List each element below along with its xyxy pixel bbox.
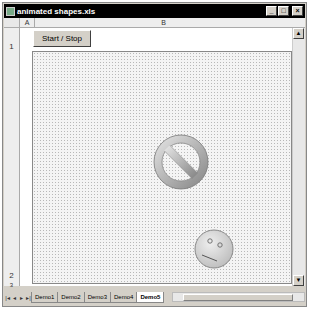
tab-demo1[interactable]: Demo1 (31, 292, 58, 303)
minimize-button[interactable]: _ (266, 6, 277, 16)
column-header-a[interactable]: A (20, 18, 35, 27)
scroll-down-button[interactable]: ▼ (293, 275, 304, 286)
select-all-corner[interactable] (4, 18, 20, 27)
maximize-button[interactable]: □ (278, 6, 289, 16)
excel-window: animated shapes.xls _ □ × A B 1 2 3 Star… (2, 2, 307, 307)
face-icon[interactable] (193, 228, 235, 270)
sheet-tab-bar: |◂ ◂ ▸ ▸| Demo1 Demo2 Demo3 Demo4 Demo5 (4, 291, 305, 303)
tab-demo3[interactable]: Demo3 (84, 292, 111, 303)
start-stop-button[interactable]: Start / Stop (33, 30, 91, 47)
close-button[interactable]: × (292, 6, 303, 16)
worksheet: Start / Stop (20, 28, 293, 286)
row-header-2[interactable]: 2 (4, 271, 19, 280)
tab-demo2[interactable]: Demo2 (57, 292, 84, 303)
next-sheet-button[interactable]: ▸ (18, 294, 25, 301)
column-header-b[interactable]: B (35, 18, 292, 27)
column-header-bar: A B (4, 18, 305, 28)
animation-canvas (32, 51, 292, 284)
row-header-1[interactable]: 1 (4, 42, 19, 51)
row-header-3[interactable]: 3 (4, 282, 19, 288)
title-bar: animated shapes.xls _ □ × (4, 4, 305, 18)
scroll-up-button[interactable]: ▲ (293, 28, 304, 39)
prev-sheet-button[interactable]: ◂ (11, 294, 18, 301)
vertical-scrollbar[interactable]: ▲ ▼ (292, 28, 305, 286)
horizontal-scroll-thumb[interactable] (183, 294, 293, 301)
excel-app-icon (6, 7, 15, 16)
window-title: animated shapes.xls (17, 7, 266, 16)
horizontal-scrollbar[interactable] (172, 292, 305, 302)
tab-demo5[interactable]: Demo5 (136, 292, 164, 303)
tab-demo4[interactable]: Demo4 (110, 292, 137, 303)
first-sheet-button[interactable]: |◂ (4, 294, 11, 301)
no-symbol-icon[interactable] (153, 134, 209, 190)
row-header-bar: 1 2 3 (4, 28, 20, 286)
